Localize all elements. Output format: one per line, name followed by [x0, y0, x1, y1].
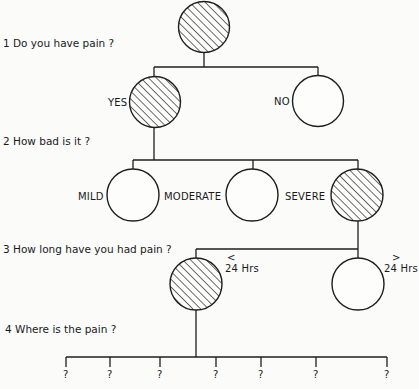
moderate-label: MODERATE	[164, 191, 221, 202]
more-than-24h-node[interactable]	[332, 258, 384, 310]
location-unknown-5: ?	[258, 369, 263, 380]
level-2-connectors	[133, 127, 358, 169]
location-unknown-4: ?	[213, 369, 218, 380]
level-3-connectors	[196, 221, 358, 258]
pain-decision-tree: 1 Do you have pain ? 2 How bad is it ? 3…	[0, 0, 419, 389]
level-1-connectors	[154, 53, 318, 77]
location-unknown-1: ?	[63, 369, 68, 380]
less-than-24h-label: 24 Hrs	[225, 263, 259, 274]
location-unknown-7: ?	[384, 369, 389, 380]
yes-label: YES	[107, 97, 127, 108]
root-node-hatched	[179, 2, 230, 53]
severe-node-hatched[interactable]	[331, 169, 383, 221]
no-node[interactable]	[293, 76, 344, 127]
question-3-label: 3 How long have you had pain ?	[3, 243, 172, 255]
no-label: NO	[274, 96, 290, 107]
question-4-label: 4 Where is the pain ?	[5, 323, 116, 335]
question-2-label: 2 How bad is it ?	[3, 135, 90, 147]
location-unknown-2: ?	[107, 369, 112, 380]
location-unknown-3: ?	[157, 369, 162, 380]
less-than-24h-node-hatched[interactable]	[170, 258, 222, 310]
yes-node-hatched[interactable]	[130, 77, 181, 128]
moderate-node[interactable]	[226, 169, 278, 221]
greater-than-symbol: >	[392, 252, 401, 263]
severe-label: SEVERE	[285, 191, 325, 202]
mild-node[interactable]	[107, 169, 159, 221]
location-unknown-6: ?	[313, 369, 318, 380]
level-4-connectors	[66, 310, 387, 367]
mild-label: MILD	[78, 191, 104, 202]
question-1-label: 1 Do you have pain ?	[3, 37, 114, 49]
less-than-symbol: <	[227, 252, 236, 263]
more-than-24h-label: 24 Hrs	[384, 263, 418, 274]
